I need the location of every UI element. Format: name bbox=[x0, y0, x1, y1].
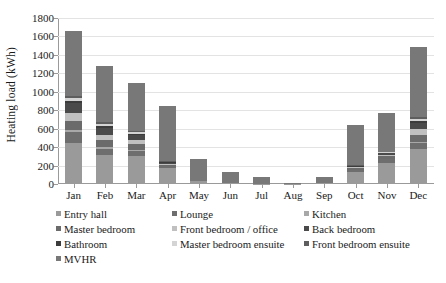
bar-segment bbox=[65, 113, 82, 121]
x-axis-tick-label-feb: Feb bbox=[89, 188, 120, 204]
legend-swatch-icon bbox=[56, 211, 61, 216]
legend-label: Back bedroom bbox=[312, 223, 375, 235]
x-axis-tick-label-dec: Dec bbox=[403, 188, 434, 204]
bar-segment bbox=[65, 132, 82, 143]
stacked-bar[interactable] bbox=[65, 31, 82, 184]
legend-swatch-icon bbox=[304, 211, 309, 216]
bar-segment bbox=[410, 47, 427, 117]
legend-label: Bathroom bbox=[64, 238, 107, 250]
legend-swatch-icon bbox=[56, 256, 61, 261]
legend-swatch-icon bbox=[56, 226, 61, 231]
y-axis-tick-label: 1600 bbox=[14, 31, 54, 42]
bar-segment bbox=[96, 149, 113, 156]
stacked-bar[interactable] bbox=[128, 83, 145, 184]
legend-entry[interactable]: Bathroom bbox=[56, 238, 172, 250]
chart-legend: Entry hallLoungeKitchenMaster bedroomFro… bbox=[56, 206, 442, 266]
bar-slot-jul bbox=[246, 18, 277, 184]
stacked-bar[interactable] bbox=[253, 177, 270, 184]
x-axis-tick-label-jul: Jul bbox=[246, 188, 277, 204]
legend-entry[interactable]: Master bedroom bbox=[56, 223, 172, 235]
bar-segment bbox=[65, 103, 82, 113]
x-axis-tick-label-sep: Sep bbox=[309, 188, 340, 204]
y-axis-tick-label: 1400 bbox=[14, 49, 54, 60]
bar-segment bbox=[65, 121, 82, 130]
y-axis-tick-label: 200 bbox=[14, 160, 54, 171]
y-axis-tick-label: 1200 bbox=[14, 68, 54, 79]
bar-group bbox=[58, 18, 434, 184]
legend-label: Front bedroom / office bbox=[180, 223, 278, 235]
bar-segment bbox=[65, 143, 82, 185]
legend-swatch-icon bbox=[304, 241, 309, 246]
x-axis-tick-label-oct: Oct bbox=[340, 188, 371, 204]
y-axis-tick-label: 400 bbox=[14, 142, 54, 153]
y-axis-tick-labels: 180016001400120010008006004002000 bbox=[10, 18, 54, 184]
bar-segment bbox=[128, 156, 145, 184]
legend-entry[interactable]: Master bedroom ensuite bbox=[172, 238, 304, 250]
bar-segment bbox=[222, 172, 239, 183]
bar-slot-apr bbox=[152, 18, 183, 184]
legend-label: Kitchen bbox=[312, 208, 346, 220]
stacked-bar[interactable] bbox=[410, 47, 427, 184]
bar-segment bbox=[128, 83, 145, 131]
stacked-bar[interactable] bbox=[378, 113, 395, 184]
x-axis-tick-label-jan: Jan bbox=[58, 188, 89, 204]
stacked-bar[interactable] bbox=[96, 66, 113, 184]
bar-slot-jan bbox=[58, 18, 89, 184]
plot-area bbox=[58, 18, 434, 184]
bar-slot-mar bbox=[121, 18, 152, 184]
bar-segment bbox=[378, 113, 395, 152]
legend-entry[interactable]: Entry hall bbox=[56, 208, 172, 220]
bar-slot-jun bbox=[215, 18, 246, 184]
y-axis-tick-label: 600 bbox=[14, 123, 54, 134]
legend-swatch-icon bbox=[172, 226, 177, 231]
legend-swatch-icon bbox=[172, 241, 177, 246]
x-axis-tick-label-nov: Nov bbox=[371, 188, 402, 204]
legend-swatch-icon bbox=[304, 226, 309, 231]
y-axis-tick-label: 1000 bbox=[14, 86, 54, 97]
heating-load-stacked-bar-chart: Heating load (kWh) 180016001400120010008… bbox=[0, 0, 446, 283]
legend-entry[interactable]: MVHR bbox=[56, 253, 172, 265]
stacked-bar[interactable] bbox=[347, 125, 364, 184]
bar-segment bbox=[96, 128, 113, 135]
x-axis-tick-labels: JanFebMarAprMayJunJulAugSepOctNovDec bbox=[58, 188, 434, 204]
bar-segment bbox=[410, 149, 427, 184]
bar-slot-dec bbox=[403, 18, 434, 184]
x-axis-tick-label-jun: Jun bbox=[215, 188, 246, 204]
bar-segment bbox=[159, 106, 176, 161]
y-axis-tick-label: 800 bbox=[14, 105, 54, 116]
bar-slot-nov bbox=[371, 18, 402, 184]
stacked-bar[interactable] bbox=[190, 159, 207, 184]
legend-entry[interactable]: Back bedroom bbox=[304, 223, 436, 235]
legend-entry[interactable]: Front bedroom ensuite bbox=[304, 238, 436, 250]
bar-segment bbox=[378, 163, 395, 184]
bar-segment bbox=[347, 125, 364, 165]
bar-segment bbox=[347, 172, 364, 184]
legend-label: MVHR bbox=[64, 253, 96, 265]
bar-slot-aug bbox=[277, 18, 308, 184]
legend-label: Lounge bbox=[180, 208, 213, 220]
legend-label: Master bedroom ensuite bbox=[180, 238, 284, 250]
stacked-bar[interactable] bbox=[222, 172, 239, 184]
x-axis-tick-label-may: May bbox=[183, 188, 214, 204]
legend-label: Entry hall bbox=[64, 208, 107, 220]
bar-slot-sep bbox=[309, 18, 340, 184]
stacked-bar[interactable] bbox=[159, 106, 176, 184]
legend-label: Front bedroom ensuite bbox=[312, 238, 410, 250]
bar-slot-feb bbox=[89, 18, 120, 184]
bar-slot-oct bbox=[340, 18, 371, 184]
legend-entry[interactable]: Front bedroom / office bbox=[172, 223, 304, 235]
bar-segment bbox=[159, 168, 176, 184]
legend-entry[interactable]: Kitchen bbox=[304, 208, 436, 220]
legend-swatch-icon bbox=[56, 241, 61, 246]
legend-swatch-icon bbox=[172, 211, 177, 216]
bar-segment bbox=[96, 155, 113, 184]
bar-segment bbox=[96, 66, 113, 122]
legend-entry[interactable]: Lounge bbox=[172, 208, 304, 220]
bar-segment bbox=[96, 140, 113, 147]
legend-label: Master bedroom bbox=[64, 223, 135, 235]
stacked-bar[interactable] bbox=[316, 177, 333, 184]
x-axis-tick-label-apr: Apr bbox=[152, 188, 183, 204]
bar-slot-may bbox=[183, 18, 214, 184]
bar-segment bbox=[190, 159, 207, 181]
y-axis-tick-label: 1800 bbox=[14, 13, 54, 24]
